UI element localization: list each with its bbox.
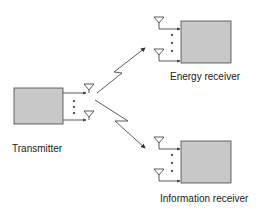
antenna-icon	[84, 84, 94, 93]
transmitter-label: Transmitter	[12, 143, 62, 154]
information-receiver-label: Information receiver	[160, 193, 248, 204]
energy-receiver-block	[154, 17, 231, 63]
antenna-icon	[154, 169, 164, 181]
transmitter-block	[14, 84, 94, 124]
ellipsis-dots	[171, 34, 173, 52]
ellipsis-dots	[171, 154, 173, 172]
antenna-icon	[84, 111, 94, 120]
information-receiver-block	[154, 137, 231, 183]
antenna-icon	[154, 17, 164, 29]
wireless-link-information	[95, 100, 145, 148]
wireless-link-energy	[97, 48, 145, 93]
ellipsis-dots	[73, 100, 75, 114]
antenna-icon	[154, 49, 164, 61]
antenna-icon	[154, 137, 164, 149]
energy-receiver-label: Energy receiver	[170, 71, 240, 82]
diagram-canvas	[0, 0, 257, 212]
